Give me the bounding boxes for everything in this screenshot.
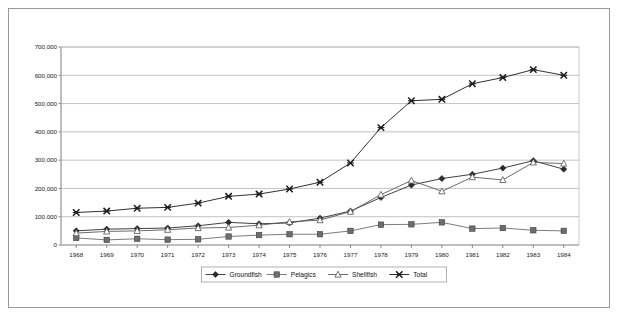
- x-tick-label: 1975: [283, 251, 297, 258]
- x-tick-label: 1970: [130, 251, 144, 258]
- data-point-groundfish-1982: [500, 165, 506, 171]
- y-tick-label: 700,000: [35, 43, 58, 50]
- legend-label-shellfish: Shellfish: [352, 271, 377, 278]
- data-point-pelagics-1972: [195, 237, 200, 242]
- x-tick-label: 1979: [405, 251, 419, 258]
- data-point-pelagics-1970: [134, 236, 139, 241]
- chart-figure-frame: 0100,000200,000300,000400,000500,000600,…: [8, 8, 610, 308]
- data-point-total-1971: [164, 204, 171, 210]
- y-tick-label: 400,000: [35, 128, 58, 135]
- y-tick-label: 500,000: [35, 100, 58, 107]
- data-point-pelagics-1973: [226, 234, 231, 239]
- legend-label-pelagics: Pelagics: [291, 271, 317, 279]
- data-point-pelagics-1976: [317, 232, 322, 237]
- data-point-shellfish-1979: [408, 177, 414, 183]
- data-point-total-1968: [73, 209, 80, 215]
- x-tick-label: 1973: [222, 251, 236, 258]
- series-shellfish: [73, 159, 567, 236]
- data-point-pelagics-1982: [500, 225, 505, 230]
- data-point-total-1977: [347, 160, 354, 166]
- x-tick-label: 1978: [374, 251, 388, 258]
- data-point-total-1975: [286, 186, 293, 192]
- data-point-total-1979: [408, 98, 415, 104]
- data-point-total-1973: [225, 193, 232, 199]
- data-point-pelagics-1980: [439, 220, 444, 225]
- x-tick-label: 1980: [435, 251, 449, 258]
- legend-label-groundfish: Groundfish: [230, 271, 263, 278]
- y-tick-label: 600,000: [35, 72, 58, 79]
- data-point-total-1972: [195, 200, 202, 206]
- data-point-total-1970: [134, 205, 141, 211]
- data-point-total-1976: [317, 179, 324, 185]
- data-point-total-1974: [256, 191, 263, 197]
- data-point-total-1969: [103, 208, 110, 214]
- data-point-pelagics-1979: [409, 222, 414, 227]
- y-tick-label: 0: [54, 241, 58, 248]
- series-line-pelagics: [76, 222, 564, 240]
- x-tick-label: 1971: [161, 251, 175, 258]
- data-point-total-1983: [530, 66, 537, 72]
- x-tick-label: 1969: [100, 251, 114, 258]
- data-point-pelagics-1981: [470, 226, 475, 231]
- x-tick-label: 1982: [496, 251, 510, 258]
- x-tick-label: 1974: [252, 251, 266, 258]
- data-point-total-1981: [469, 81, 476, 87]
- data-point-pelagics-1969: [104, 237, 109, 242]
- data-point-pelagics-1978: [378, 222, 383, 227]
- x-tick-label: 1983: [526, 251, 540, 258]
- x-tick-label: 1981: [465, 251, 479, 258]
- y-tick-label: 100,000: [35, 213, 58, 220]
- series-line-total: [76, 70, 564, 213]
- data-point-total-1980: [438, 96, 445, 102]
- data-point-pelagics-1974: [256, 232, 261, 237]
- data-point-pelagics-1975: [287, 232, 292, 237]
- legend-label-total: Total: [413, 271, 427, 278]
- legend-marker-pelagics: [274, 272, 279, 277]
- y-gridlines: 0100,000200,000300,000400,000500,000600,…: [35, 43, 579, 248]
- data-point-groundfish-1980: [439, 175, 445, 181]
- data-point-pelagics-1971: [165, 237, 170, 242]
- data-point-total-1984: [560, 72, 567, 78]
- line-chart: 0100,000200,000300,000400,000500,000600,…: [9, 9, 611, 309]
- data-point-shellfish-1978: [378, 191, 384, 197]
- x-tick-label: 1977: [344, 251, 358, 258]
- data-point-total-1978: [378, 124, 385, 130]
- data-point-pelagics-1983: [531, 228, 536, 233]
- chart-plot-wrapper: 0100,000200,000300,000400,000500,000600,…: [9, 9, 611, 309]
- data-point-groundfish-1984: [561, 166, 567, 172]
- data-point-pelagics-1984: [561, 228, 566, 233]
- x-tick-label: 1968: [69, 251, 83, 258]
- x-tick-label: 1976: [313, 251, 327, 258]
- x-tick-label: 1984: [557, 251, 571, 258]
- y-tick-label: 200,000: [35, 185, 58, 192]
- y-tick-label: 300,000: [35, 156, 58, 163]
- x-tick-label: 1972: [191, 251, 205, 258]
- x-axis: 1968196919701971197219731974197519761977…: [69, 245, 571, 258]
- data-point-pelagics-1977: [348, 228, 353, 233]
- chart-legend: GroundfishPelagicsShellfishTotal: [202, 267, 447, 282]
- series-total: [73, 66, 567, 215]
